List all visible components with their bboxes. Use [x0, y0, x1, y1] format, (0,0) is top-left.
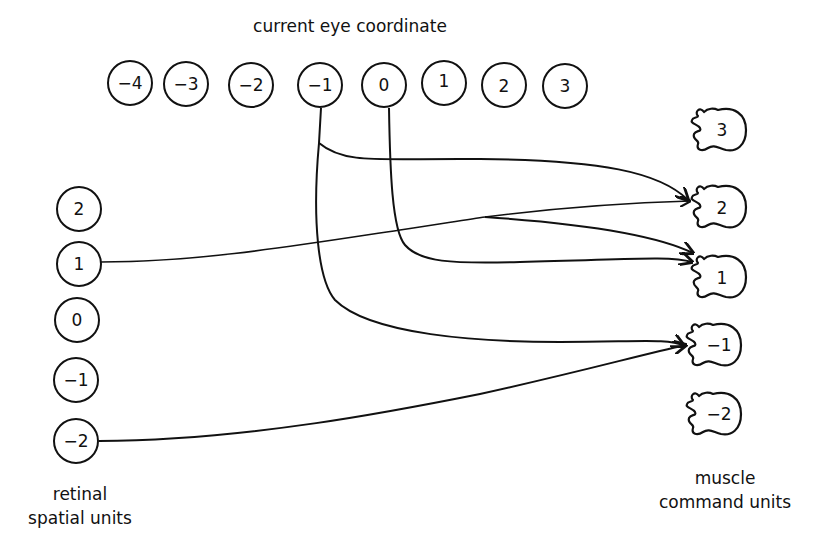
muscle-unit: 3 — [692, 109, 746, 151]
eye-unit-label: 2 — [499, 76, 510, 96]
eye-unit: 3 — [543, 64, 587, 108]
retinal-unit-label: 2 — [74, 199, 85, 219]
eye-unit-label: −1 — [307, 75, 332, 95]
eye-unit-label: −4 — [117, 73, 142, 93]
retinal-units-label-line1: retinal — [10, 482, 150, 506]
muscle-unit: −2 — [687, 393, 741, 435]
eye-unit: 2 — [482, 63, 526, 107]
connection-eye-0-to-muscle-1 — [389, 108, 692, 263]
muscle-units-label: muscle command units — [640, 466, 810, 514]
muscle-unit-column: 3 2 1 −1 −2 — [687, 109, 746, 435]
muscle-unit-label: −2 — [706, 404, 731, 424]
muscle-units-label-line2: command units — [640, 490, 810, 514]
retinal-unit: 0 — [55, 298, 99, 342]
muscle-unit-label: −1 — [706, 335, 731, 355]
muscle-unit: 1 — [692, 256, 746, 298]
eye-unit-label: −3 — [173, 74, 198, 94]
connection-retinal-1-trunk — [101, 217, 485, 262]
retinal-unit-label: 1 — [74, 254, 85, 274]
connection-retinal-minus2-to-muscle-minus1 — [99, 345, 686, 441]
eye-unit: −3 — [164, 62, 208, 106]
eye-unit-label: 0 — [379, 75, 390, 95]
muscle-unit-label: 1 — [717, 268, 728, 288]
retinal-unit-label: 0 — [72, 310, 83, 330]
eye-unit: −1 — [298, 63, 342, 107]
retinal-unit: 2 — [57, 187, 101, 231]
muscle-unit: 2 — [692, 186, 746, 228]
retinal-unit-column: 2 1 0 −1 −2 — [54, 187, 101, 463]
connection-eye-minus1-to-muscle-2 — [319, 108, 688, 200]
eye-coordinate-row: −4 −3 −2 −1 0 1 2 3 — [108, 61, 587, 108]
muscle-unit-label: 3 — [717, 120, 728, 140]
muscle-unit: −1 — [687, 324, 741, 366]
eye-unit: 0 — [362, 63, 406, 107]
connections — [99, 108, 693, 441]
diagram-canvas: −4 −3 −2 −1 0 1 2 3 2 1 0 −1 −2 3 2 1 −1… — [0, 0, 815, 545]
eye-unit-label: 1 — [439, 71, 450, 91]
eye-unit-label: 3 — [560, 76, 571, 96]
retinal-unit: −2 — [54, 419, 98, 463]
eye-unit-label: −2 — [238, 75, 263, 95]
eye-coordinate-label: current eye coordinate — [200, 14, 500, 38]
connection-retinal-1-to-muscle-1 — [485, 217, 693, 253]
connection-eye-minus1-to-muscle-minus1 — [316, 143, 684, 346]
retinal-unit-label: −2 — [63, 431, 88, 451]
connection-retinal-1-to-muscle-2 — [485, 201, 690, 217]
retinal-unit: 1 — [57, 242, 101, 286]
eye-unit: 1 — [422, 61, 466, 105]
retinal-unit: −1 — [54, 358, 98, 402]
retinal-units-label: retinal spatial units — [10, 482, 150, 530]
retinal-units-label-line2: spatial units — [10, 506, 150, 530]
retinal-unit-label: −1 — [63, 370, 88, 390]
muscle-units-label-line1: muscle — [640, 466, 810, 490]
muscle-unit-label: 2 — [717, 198, 728, 218]
eye-unit: −2 — [229, 63, 273, 107]
eye-unit: −4 — [108, 61, 152, 105]
